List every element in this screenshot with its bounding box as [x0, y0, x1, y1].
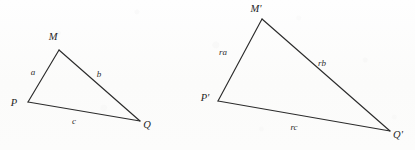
vertex-label-Q: Q — [143, 119, 151, 130]
vertex-label-P: P — [10, 97, 18, 108]
side-label-ra: ra — [219, 47, 228, 57]
side-label-c: c — [72, 116, 76, 126]
edge-rb-Mprime-to-Qprime — [262, 19, 390, 131]
similar-triangles-figure: M P Q a b c M' P' Q' ra rb rc — [0, 0, 415, 150]
vertex-label-M-prime: M' — [250, 3, 263, 14]
vertex-label-P-prime: P' — [200, 92, 210, 103]
side-label-b: b — [97, 69, 102, 79]
edge-ra-Pprime-to-Mprime — [218, 19, 262, 101]
side-label-a: a — [31, 67, 36, 77]
side-label-rb: rb — [318, 58, 327, 68]
vertex-label-M: M — [48, 31, 59, 42]
figure-canvas: M P Q a b c M' P' Q' ra rb rc — [0, 0, 415, 150]
edge-rc-Pprime-to-Qprime — [218, 101, 390, 131]
vertex-label-Q-prime: Q' — [393, 129, 404, 140]
edge-c-P-to-Q — [28, 102, 140, 121]
edge-b-M-to-Q — [59, 50, 140, 121]
triangle-PMQ: M P Q a b c — [10, 31, 151, 130]
side-label-rc: rc — [290, 122, 297, 132]
triangle-P-prime-M-prime-Q-prime: M' P' Q' ra rb rc — [200, 3, 404, 140]
